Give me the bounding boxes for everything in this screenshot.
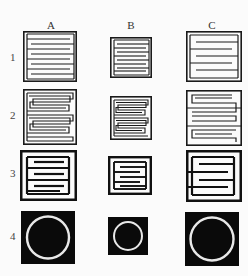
ring-electrode-icon bbox=[185, 212, 239, 266]
pattern-3a-comb-thick bbox=[20, 150, 77, 201]
thick-comb-electrode-icon bbox=[108, 156, 152, 195]
thick-comb-electrode-icon bbox=[20, 150, 77, 201]
pattern-4a-ring bbox=[21, 211, 75, 264]
interdigitated-comb-icon bbox=[23, 31, 77, 82]
row-label-1: 1 bbox=[10, 52, 16, 63]
pattern-4c-ring bbox=[185, 212, 239, 266]
row-label-3: 3 bbox=[10, 168, 16, 179]
row-label-4: 4 bbox=[10, 231, 16, 242]
pattern-1a-comb bbox=[23, 31, 77, 82]
serpentine-meander-icon bbox=[23, 89, 77, 145]
ring-electrode-icon bbox=[108, 217, 148, 255]
pattern-2b-serpentine bbox=[110, 96, 152, 140]
column-header-c: C bbox=[208, 20, 215, 31]
row-label-2: 2 bbox=[10, 110, 16, 121]
interdigitated-comb-icon bbox=[186, 31, 242, 82]
pattern-1b-comb bbox=[110, 37, 152, 78]
ring-electrode-icon bbox=[21, 211, 75, 264]
serpentine-meander-icon bbox=[110, 96, 152, 140]
pattern-3c-comb-thick bbox=[186, 150, 242, 202]
column-header-a: A bbox=[47, 20, 55, 31]
pattern-2a-serpentine bbox=[23, 89, 77, 145]
pattern-2c-serpentine bbox=[186, 90, 242, 146]
pattern-3b-comb-thick bbox=[108, 156, 152, 195]
thick-comb-electrode-icon bbox=[186, 150, 242, 202]
serpentine-meander-icon bbox=[186, 90, 242, 146]
column-header-b: B bbox=[127, 20, 134, 31]
interdigitated-comb-icon bbox=[110, 37, 152, 78]
pattern-1c-comb bbox=[186, 31, 242, 82]
pattern-4b-ring bbox=[108, 217, 148, 255]
